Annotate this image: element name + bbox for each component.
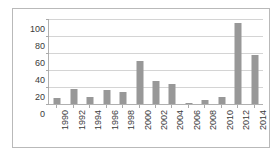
plot-area (48, 19, 263, 105)
bar[interactable] (152, 81, 159, 104)
y-axis-tick-label: 40 (15, 76, 45, 85)
x-axis-tick-label: 2014 (258, 110, 267, 130)
bar-slot (98, 19, 114, 104)
bar[interactable] (70, 89, 77, 104)
bar-slot (131, 19, 147, 104)
x-axis-tick-mark (171, 105, 172, 108)
y-axis-tick-label: 100 (15, 25, 45, 34)
y-axis-tick-label: 0 (15, 110, 45, 119)
x-axis-tick: 2014 (246, 105, 262, 147)
x-axis-tick: 1996 (97, 105, 113, 147)
x-axis-tick: 2012 (229, 105, 245, 147)
x-axis-tick-mark (89, 105, 90, 108)
bar[interactable] (185, 103, 192, 104)
x-axis-tick-mark (155, 105, 156, 108)
x-axis-tick-mark (221, 105, 222, 108)
bar-slot (82, 19, 98, 104)
bar-slot (230, 19, 246, 104)
bar-slot (197, 19, 213, 104)
x-axis-tick: 1992 (64, 105, 80, 147)
chart-figure: 020406080100 199019921994199619982000200… (12, 8, 270, 148)
x-axis-tick-mark (204, 105, 205, 108)
y-axis-tick-label: 60 (15, 59, 45, 68)
y-axis: 020406080100 (15, 19, 45, 104)
bar[interactable] (218, 97, 225, 104)
x-axis-tick: 2000 (130, 105, 146, 147)
x-axis-tick-mark (73, 105, 74, 108)
bar-slot (148, 19, 164, 104)
x-axis-tick: 1994 (81, 105, 97, 147)
y-axis-tick-label: 20 (15, 93, 45, 102)
bar-slot (181, 19, 197, 104)
x-axis-tick-mark (56, 105, 57, 108)
bar-slot (65, 19, 81, 104)
bar[interactable] (251, 55, 258, 104)
x-axis-tick: 1998 (114, 105, 130, 147)
bar[interactable] (87, 97, 94, 104)
x-axis: 1990199219941996199820002002200420062008… (48, 105, 262, 147)
x-axis-tick: 2006 (180, 105, 196, 147)
x-axis-tick-mark (237, 105, 238, 108)
bar[interactable] (136, 61, 143, 104)
bar-slot (115, 19, 131, 104)
x-axis-tick: 2004 (163, 105, 179, 147)
y-axis-tick-label: 80 (15, 42, 45, 51)
bar[interactable] (120, 92, 127, 104)
bar-slot (247, 19, 263, 104)
bar[interactable] (235, 23, 242, 104)
bar-series (49, 19, 263, 104)
x-axis-tick-mark (106, 105, 107, 108)
bar-slot (49, 19, 65, 104)
bar[interactable] (103, 90, 110, 104)
bar[interactable] (202, 100, 209, 104)
x-axis-tick: 2010 (213, 105, 229, 147)
x-axis-tick: 2008 (196, 105, 212, 147)
bar[interactable] (54, 98, 61, 104)
x-axis-tick-mark (188, 105, 189, 108)
x-axis-tick-mark (254, 105, 255, 108)
chart-plot-wrapper: 020406080100 199019921994199619982000200… (13, 9, 269, 147)
x-axis-tick: 1990 (48, 105, 64, 147)
x-axis-tick-mark (139, 105, 140, 108)
bar[interactable] (169, 84, 176, 104)
bar-slot (164, 19, 180, 104)
x-axis-tick-mark (122, 105, 123, 108)
bar-slot (214, 19, 230, 104)
x-axis-tick: 2002 (147, 105, 163, 147)
